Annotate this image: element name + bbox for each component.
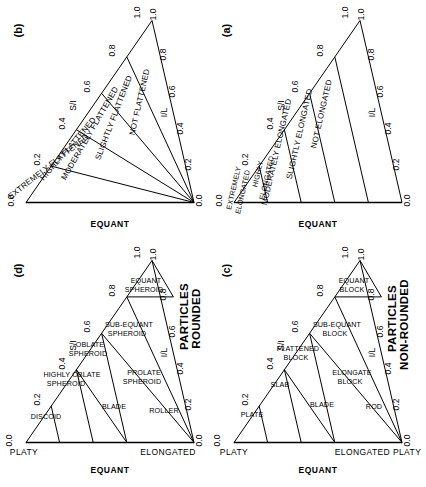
tick-si-06: 0.6	[290, 80, 300, 92]
axis-label-si: S/I	[68, 100, 78, 110]
tick-il-04: 0.4	[383, 362, 393, 374]
tick-si-04: 0.4	[265, 357, 275, 369]
tick-il-04: 0.4	[383, 122, 393, 134]
tick-si-06: 0.6	[82, 80, 92, 92]
tick-si-1: 1.0	[340, 6, 350, 18]
zone-label-discoid: DISCOID	[31, 411, 62, 420]
tick-il-1: 1.0	[148, 8, 158, 20]
panel-a-zone-labels: NOT ELONGATED SLIGHTLY ELONGATED MODERAT…	[224, 78, 334, 214]
panel-a-label: (a)	[220, 23, 232, 37]
panel-c: 1.0 0.8 0.6 0.4 0.2 0.0 S/I 1.0 0.8 0.6 …	[216, 246, 420, 482]
zone-label-blade: BLADE	[310, 399, 334, 408]
panel-d-label: (d)	[12, 263, 24, 277]
tick-si-00: 0.0	[212, 434, 222, 446]
tick-si-08: 0.8	[315, 284, 325, 296]
figure-rotated-wrapper: 1.0 0.8 0.6 0.4 0.2 0.0 S/I 1.0 0.8 0.6 …	[0, 0, 426, 487]
zone-label-roller: ROLLER	[149, 405, 178, 414]
tick-il-06: 0.6	[167, 85, 177, 97]
panel-c-label: (c)	[220, 263, 232, 277]
tick-il-02: 0.2	[183, 158, 193, 170]
zone-label-prolate-spheroid-l2: SPHEROID	[123, 376, 161, 385]
panel-c-svg: 1.0 0.8 0.6 0.4 0.2 0.0 S/I 1.0 0.8 0.6 …	[216, 246, 420, 482]
tick-il-08: 0.8	[158, 48, 168, 60]
panel-d-corner-platy: PLATY	[10, 446, 38, 456]
zone-label-highly-oblate-spheroid-l1: HIGHLY OBLATE	[43, 369, 100, 378]
tick-il-00: 0.0	[402, 434, 412, 446]
tick-il-00: 0.0	[194, 434, 204, 446]
zone-label-slab: SLAB	[271, 379, 290, 388]
panel-a-svg: 1.0 0.8 0.6 0.4 0.2 0.0 S/I 1.0 0.8 0.6 …	[216, 6, 420, 238]
panel-d: 1.0 0.8 0.6 0.4 0.2 0.0 S/I 1.0 0.8 0.6 …	[8, 246, 212, 482]
tick-si-04: 0.4	[265, 117, 275, 129]
panel-d-corner-elongated: ELONGATED	[140, 446, 195, 456]
tick-si-00: 0.0	[214, 194, 224, 206]
tick-si-02: 0.2	[240, 153, 250, 165]
tick-il-04: 0.4	[175, 362, 185, 374]
tick-si-06: 0.6	[290, 320, 300, 332]
tick-si-00: 0.0	[4, 434, 14, 446]
zone-label-rod: ROD	[366, 401, 382, 410]
zone-label-plate: PLATE	[241, 409, 264, 418]
panel-b-corner-equant: EQUANT	[91, 218, 130, 228]
panel-c-title-line1: NON-ROUNDED	[398, 279, 410, 370]
panel-d-title-line1: ROUNDED	[190, 288, 202, 348]
zone-label-highly-oblate-spheroid-l2: SPHEROID	[47, 378, 85, 387]
panel-a-corner-equant: EQUANT	[299, 218, 338, 228]
tick-si-08: 0.8	[107, 44, 117, 56]
panel-b: 1.0 0.8 0.6 0.4 0.2 0.0 S/I 1.0 0.8 0.6 …	[8, 6, 212, 238]
tick-il-02: 0.2	[391, 158, 401, 170]
zone-label-equant-block-l2: BLOCK	[340, 284, 365, 293]
panel-b-label: (b)	[12, 23, 24, 37]
panel-c-title-line2: PARTICLES	[386, 284, 398, 351]
axis-label-il: I/L	[367, 107, 377, 117]
tick-si-08: 0.8	[107, 284, 117, 296]
tick-si-06: 0.6	[82, 320, 92, 332]
tick-si-02: 0.2	[32, 393, 42, 405]
zone-label-equant-spheroid-l1: EQUANT	[131, 275, 162, 284]
tick-il-02: 0.2	[183, 398, 193, 410]
zone-label-blade: BLADE	[102, 401, 126, 410]
tick-il-04: 0.4	[175, 122, 185, 134]
panel-c-corner-elongated: ELONGATED PLATY	[335, 446, 421, 456]
zone-label-sub-equant-spheroid-l2: SPHEROID	[108, 328, 146, 337]
tick-il-1: 1.0	[356, 8, 366, 20]
panel-c-corner-platy: PLATY	[220, 446, 248, 456]
panel-b-zone-labels: NOT FLATTENED SLIGHTLY FLATTENED MODERAT…	[6, 67, 151, 200]
tick-il-08: 0.8	[366, 48, 376, 60]
zone-label-sub-equant-block-l1: SUB-EQUANT	[313, 319, 362, 328]
zone-label-elongate-block-l2: BLOCK	[338, 376, 363, 385]
tick-il-1: 1.0	[356, 248, 366, 260]
zone-label-sub-equant-block-l2: BLOCK	[323, 328, 348, 337]
panel-c-corner-equant: EQUANT	[299, 464, 338, 474]
tick-il-02: 0.2	[391, 398, 401, 410]
zone-label-equant-block-l1: EQUANT	[339, 275, 370, 284]
panel-a: 1.0 0.8 0.6 0.4 0.2 0.0 S/I 1.0 0.8 0.6 …	[216, 6, 420, 238]
tick-il-06: 0.6	[375, 85, 385, 97]
panel-d-title-line2: PARTICLES	[178, 282, 190, 349]
tick-il-1: 1.0	[148, 248, 158, 260]
tick-si-04: 0.4	[57, 357, 67, 369]
zone-label-sub-equant-spheroid-l1: SUB-EQUANT	[105, 319, 154, 328]
axis-label-il: I/L	[159, 107, 169, 117]
tick-si-1: 1.0	[340, 246, 350, 258]
panel-d-svg: 1.0 0.8 0.6 0.4 0.2 0.0 S/I 1.0 0.8 0.6 …	[8, 246, 212, 482]
zone-label-flattened-block-l1: FLATTENED	[277, 343, 319, 352]
zone-label-oblate-spheroid-l2: SPHEROID	[69, 348, 107, 357]
panel-d-corner-equant: EQUANT	[91, 464, 130, 474]
tick-il-00: 0.0	[194, 194, 204, 206]
axis-label-il: I/L	[367, 347, 377, 357]
tick-il-00: 0.0	[402, 194, 412, 206]
zone-label-elongate-block-l1: ELONGATE	[332, 367, 372, 376]
tick-il-06: 0.6	[167, 325, 177, 337]
tick-si-02: 0.2	[240, 393, 250, 405]
tick-si-02: 0.2	[32, 153, 42, 165]
tick-si-04: 0.4	[57, 117, 67, 129]
axis-label-il: I/L	[159, 347, 169, 357]
panel-d-si-ticks: 1.0 0.8 0.6 0.4 0.2 0.0 S/I	[4, 246, 142, 446]
tick-si-1: 1.0	[132, 246, 142, 258]
tick-il-06: 0.6	[375, 325, 385, 337]
tick-il-08: 0.8	[366, 288, 376, 300]
panel-b-svg: 1.0 0.8 0.6 0.4 0.2 0.0 S/I 1.0 0.8 0.6 …	[8, 6, 212, 238]
tick-si-1: 1.0	[132, 6, 142, 18]
panel-b-dividers	[51, 56, 194, 202]
